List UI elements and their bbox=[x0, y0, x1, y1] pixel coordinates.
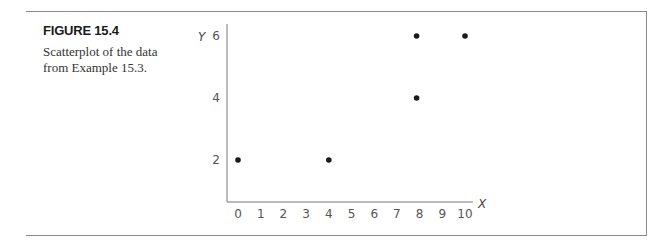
y-axis-label: Y bbox=[198, 30, 207, 44]
x-axis-label: X bbox=[477, 197, 487, 211]
data-point bbox=[462, 33, 468, 39]
data-point bbox=[414, 33, 420, 39]
data-point bbox=[326, 157, 332, 163]
x-tick-label: 4 bbox=[325, 207, 333, 221]
scatter-plot: 012345678910 246 X Y bbox=[0, 0, 672, 252]
x-tick-label: 0 bbox=[234, 207, 242, 221]
y-tick-label: 4 bbox=[212, 91, 220, 105]
x-tick-label: 6 bbox=[370, 207, 378, 221]
x-tick-label: 2 bbox=[280, 207, 288, 221]
x-tick-label: 7 bbox=[393, 207, 401, 221]
x-tick-label: 9 bbox=[438, 207, 446, 221]
data-points bbox=[235, 33, 468, 163]
x-tick-label: 8 bbox=[416, 207, 424, 221]
y-tick-labels: 246 bbox=[212, 29, 220, 167]
x-tick-label: 10 bbox=[457, 207, 472, 221]
y-tick-label: 6 bbox=[212, 29, 220, 43]
y-tick-label: 2 bbox=[212, 153, 220, 167]
data-point bbox=[414, 95, 420, 101]
x-tick-labels: 012345678910 bbox=[234, 207, 472, 221]
data-point bbox=[235, 157, 241, 163]
x-tick-label: 3 bbox=[302, 207, 310, 221]
x-tick-label: 5 bbox=[348, 207, 356, 221]
x-tick-label: 1 bbox=[257, 207, 265, 221]
